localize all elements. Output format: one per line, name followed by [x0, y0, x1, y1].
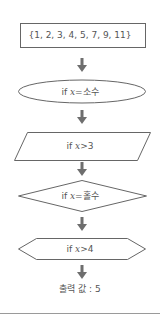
condition-operator: >	[80, 141, 88, 151]
condition-prefix: if	[67, 244, 76, 254]
condition-prefix: if	[67, 141, 76, 151]
down-arrow-icon	[77, 110, 87, 124]
condition-value: 소수	[83, 87, 99, 97]
condition-value: 4	[88, 244, 94, 254]
flowchart-shapes	[0, 0, 160, 319]
output-value: 5	[95, 284, 101, 294]
down-arrow-icon	[77, 265, 87, 279]
down-arrow-icon	[77, 58, 87, 72]
condition-operator: =	[75, 191, 83, 201]
down-arrow-icon	[77, 162, 87, 176]
condition-prefix: if	[61, 87, 70, 97]
condition-operator: >	[80, 244, 88, 254]
gt3-label: if x>3	[0, 140, 160, 152]
condition-operator: =	[75, 87, 83, 97]
output-caption: 출력 값	[59, 284, 86, 294]
set-text: {1, 2, 3, 4, 5, 7, 9, 11}	[28, 30, 131, 40]
odd-label: if x=홀수	[0, 190, 160, 202]
output-label: 출력 값 : 5	[0, 283, 160, 295]
condition-prefix: if	[61, 191, 70, 201]
down-arrow-icon	[77, 217, 87, 231]
condition-value: 3	[88, 141, 94, 151]
gt4-label: if x>4	[0, 243, 160, 255]
condition-value: 홀수	[83, 191, 99, 201]
output-separator: :	[86, 284, 95, 294]
prime-label: if x=소수	[0, 86, 160, 98]
bottom-divider	[0, 313, 160, 314]
flowchart: {1, 2, 3, 4, 5, 7, 9, 11} if x=소수 if x>3…	[0, 0, 160, 319]
set-label: {1, 2, 3, 4, 5, 7, 9, 11}	[0, 29, 160, 41]
